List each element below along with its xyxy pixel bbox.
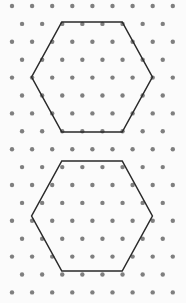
lattice-dot: [161, 272, 165, 276]
lattice-dot: [10, 40, 14, 44]
lattice-dot: [171, 290, 175, 294]
lattice-dot: [161, 237, 165, 241]
lattice-dot: [40, 272, 44, 276]
lattice-dot: [151, 290, 155, 294]
lattice-dot: [130, 4, 134, 8]
lattice-dot: [80, 237, 84, 241]
lattice-dot: [100, 237, 104, 241]
lattice-dot: [161, 165, 165, 169]
lattice-dot: [171, 75, 175, 79]
dot-grid-layer: [10, 4, 175, 295]
lattice-dot: [130, 290, 134, 294]
lattice-dot: [140, 165, 144, 169]
lattice-dot: [171, 219, 175, 223]
lattice-dot: [140, 272, 144, 276]
lattice-dot: [90, 75, 94, 79]
lattice-canvas: [0, 0, 186, 303]
lattice-dot: [30, 290, 34, 294]
lattice-dot: [161, 58, 165, 62]
lattice-dot: [171, 147, 175, 151]
lattice-dot: [70, 290, 74, 294]
lattice-dot: [90, 290, 94, 294]
lattice-dot: [80, 201, 84, 205]
lattice-dot: [100, 165, 104, 169]
lattice-dot: [30, 183, 34, 187]
lattice-dot: [20, 201, 24, 205]
lattice-dot: [161, 129, 165, 133]
lattice-dot: [110, 290, 114, 294]
lattice-dot: [171, 183, 175, 187]
lattice-dot: [130, 219, 134, 223]
lattice-dot: [90, 111, 94, 115]
lattice-dot: [10, 219, 14, 223]
lattice-dot: [20, 237, 24, 241]
lattice-dot: [171, 111, 175, 115]
lattice-dot: [90, 4, 94, 8]
lattice-dot: [90, 219, 94, 223]
lattice-dot: [60, 272, 64, 276]
lattice-dot: [110, 219, 114, 223]
lattice-dot: [20, 129, 24, 133]
lattice-dot: [151, 147, 155, 151]
lattice-dot: [120, 93, 124, 97]
lattice-dot: [60, 237, 64, 241]
lattice-dot: [171, 40, 175, 44]
lattice-dot: [30, 40, 34, 44]
lattice-dot: [70, 75, 74, 79]
lattice-dot: [40, 22, 44, 26]
lattice-dot: [60, 93, 64, 97]
lattice-dot: [90, 147, 94, 151]
lattice-dot: [80, 272, 84, 276]
lattice-dot: [161, 93, 165, 97]
lattice-dot: [161, 22, 165, 26]
lattice-dot: [130, 75, 134, 79]
hexagon-shapes-layer: [32, 22, 153, 271]
lattice-dot: [70, 4, 74, 8]
lattice-dot: [120, 237, 124, 241]
lattice-dot: [10, 4, 14, 8]
lattice-dot: [10, 290, 14, 294]
lattice-dot: [120, 201, 124, 205]
lattice-dot: [90, 183, 94, 187]
lattice-dot: [120, 58, 124, 62]
lattice-dot: [110, 147, 114, 151]
lattice-dot: [70, 40, 74, 44]
lattice-dot: [171, 4, 175, 8]
lattice-dot: [10, 183, 14, 187]
lattice-dot: [10, 75, 14, 79]
lattice-dot: [110, 75, 114, 79]
lattice-dot: [120, 272, 124, 276]
lattice-dot: [70, 254, 74, 258]
lattice-dot: [110, 183, 114, 187]
lattice-dot: [20, 272, 24, 276]
lattice-dot: [10, 111, 14, 115]
lattice-dot: [100, 93, 104, 97]
lattice-dot: [151, 183, 155, 187]
lattice-dot: [90, 254, 94, 258]
lattice-dot: [70, 111, 74, 115]
lattice-dot: [40, 201, 44, 205]
lattice-dot: [90, 40, 94, 44]
lattice-dot: [151, 111, 155, 115]
lattice-dot: [20, 58, 24, 62]
lattice-dot: [50, 219, 54, 223]
lattice-dot: [70, 183, 74, 187]
lattice-dot: [70, 147, 74, 151]
lattice-dot: [20, 93, 24, 97]
lattice-dot: [151, 254, 155, 258]
lattice-dot: [130, 147, 134, 151]
lattice-dot: [110, 111, 114, 115]
lattice-dot: [80, 58, 84, 62]
lattice-dot: [161, 201, 165, 205]
lattice-dot: [30, 147, 34, 151]
lattice-dot: [60, 201, 64, 205]
lattice-dot: [10, 254, 14, 258]
lattice-dot: [30, 4, 34, 8]
lattice-dot: [110, 4, 114, 8]
lattice-dot: [110, 254, 114, 258]
lattice-dot: [30, 254, 34, 258]
lattice-dot: [50, 75, 54, 79]
lattice-dot: [110, 40, 114, 44]
lattice-dot: [151, 4, 155, 8]
lattice-dot: [50, 290, 54, 294]
